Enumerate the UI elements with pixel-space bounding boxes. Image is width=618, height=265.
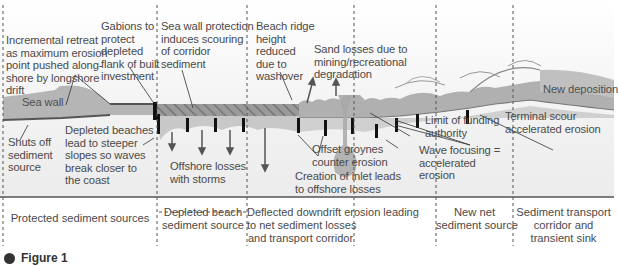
zone-protected-sediment-sources: Protected sediment sources xyxy=(3,212,157,225)
annotation-shuts-off: Shuts off sediment source xyxy=(8,136,53,174)
zone-sediment-transport-corridor: Sediment transport corridor and transien… xyxy=(513,206,614,245)
annotation-wave-focusing: Wave focusing = accelerated erosion xyxy=(419,144,500,182)
zone-new-net-sediment-source: New net sediment source xyxy=(436,206,513,232)
annotation-offshore-losses: Offshore losses with storms xyxy=(170,160,246,185)
annotation-sand-losses: Sand losses due to mining/recreational d… xyxy=(314,43,407,81)
label-new-deposition: New deposition xyxy=(543,83,618,96)
annotation-limit-funding: Limit of funding authority xyxy=(425,114,499,139)
figure-number-icon xyxy=(4,253,15,264)
sea-wall-hatched-strip xyxy=(157,104,299,116)
figure-caption: Figure 1 xyxy=(4,251,68,265)
annotation-incremental-retreat: Incremental retreat as maximum erosion p… xyxy=(6,34,107,97)
label-sea-wall: Sea wall xyxy=(22,96,64,109)
annotation-terminal-scour: Terminal scour accelerated erosion xyxy=(505,110,601,135)
zone-depleted-beach: Depleted beach sediment source xyxy=(159,206,247,232)
annotation-creation-inlet: Creation of inlet leads to offshore loss… xyxy=(295,170,401,195)
annotation-sea-wall-protection: Sea wall protection induces scouring of … xyxy=(161,20,254,70)
annotation-beach-ridge: Beach ridge height reduced due to washov… xyxy=(256,20,315,83)
zone-deflected-downdrift: Deflected downdrift erosion leading to n… xyxy=(247,206,354,245)
annotation-offset-groynes: Offset groynes counter erosion xyxy=(312,143,388,168)
annotation-depleted-beaches: Depleted beaches lead to steeper slopes … xyxy=(65,124,154,187)
annotation-gabions: Gabions to protect depleted flank of bui… xyxy=(101,20,159,83)
